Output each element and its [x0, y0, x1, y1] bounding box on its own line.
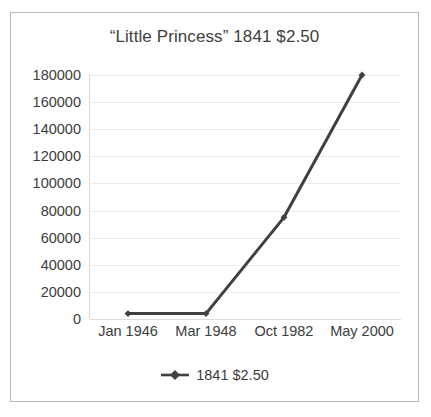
y-axis-tick-label: 100000	[33, 175, 81, 191]
y-axis-tick-labels: 0200004000060000800001000001200001400001…	[11, 75, 85, 319]
x-axis-tick-label: May 2000	[323, 323, 401, 345]
y-axis-tick-label: 20000	[41, 284, 81, 300]
chart-frame: “Little Princess” 1841 $2.50 02000040000…	[10, 12, 419, 402]
data-point-marker	[125, 310, 132, 317]
x-axis-tick-labels: Jan 1946Mar 1948Oct 1982May 2000	[89, 323, 401, 345]
y-axis-tick-label: 180000	[33, 67, 81, 83]
y-axis-tick-label: 160000	[33, 94, 81, 110]
legend-label: 1841 $2.50	[196, 367, 269, 383]
data-series-layer	[89, 75, 401, 319]
x-axis-tick-label: Mar 1948	[167, 323, 245, 345]
y-axis-tick-label: 120000	[33, 148, 81, 164]
y-axis-tick-label: 60000	[41, 230, 81, 246]
plot-area-wrapper	[89, 75, 401, 319]
x-axis-tick-label: Jan 1946	[89, 323, 167, 345]
gridline	[90, 319, 401, 320]
y-axis-tick-label: 40000	[41, 257, 81, 273]
chart-legend: 1841 $2.50	[11, 367, 418, 383]
y-axis-tick-label: 80000	[41, 203, 81, 219]
series-line	[128, 75, 362, 314]
legend-marker-icon	[160, 368, 190, 382]
x-axis-tick-label: Oct 1982	[245, 323, 323, 345]
y-axis-tick-label: 140000	[33, 121, 81, 137]
chart-title: “Little Princess” 1841 $2.50	[11, 27, 418, 47]
y-axis-tick-label: 0	[73, 311, 81, 327]
